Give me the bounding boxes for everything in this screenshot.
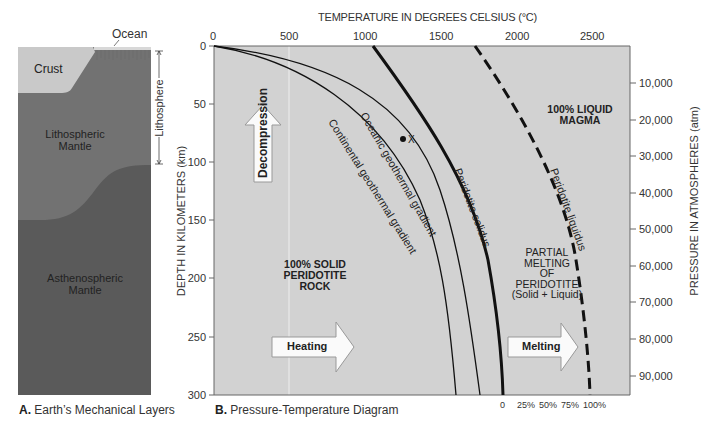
x-tick-2500: 2500 — [580, 30, 604, 42]
depth-ticks — [209, 46, 214, 395]
point-x-marker — [400, 136, 406, 142]
y-axis-left-title: DEPTH IN KILOMETERS (km) — [175, 146, 187, 296]
melt-tick-0: 0 — [500, 400, 505, 410]
melt-tick-100: 100% — [583, 400, 606, 410]
pressure-tick-20000: 20,000 — [639, 114, 673, 126]
pt-chart: Continental geothermal gradient Oceanic … — [0, 0, 703, 435]
x-tick-500: 500 — [280, 30, 298, 42]
heating-label: Heating — [287, 340, 327, 352]
pressure-tick-70000: 70,000 — [639, 296, 673, 308]
y-axis-right-title: PRESSURE IN ATMOSPHERES (atm) — [688, 106, 700, 295]
liquid-region-label: 100% LIQUID MAGMA — [535, 104, 625, 126]
x-tick-0: 0 — [210, 30, 216, 42]
depth-tick-300: 300 — [188, 389, 206, 401]
panel-b-caption: B. Pressure-Temperature Diagram — [215, 403, 398, 417]
pressure-tick-60000: 60,000 — [639, 260, 673, 272]
pressure-ticks — [630, 83, 636, 376]
melt-tick-75: 75% — [561, 400, 579, 410]
x-axis-title: TEMPERATURE IN DEGREES CELSIUS (°C) — [318, 11, 537, 23]
pressure-tick-40000: 40,000 — [639, 187, 673, 199]
pressure-tick-50000: 50,000 — [639, 223, 673, 235]
solid-region-label: 100% SOLID PERIDOTITE ROCK — [260, 259, 370, 292]
melt-tick-50: 50% — [539, 400, 557, 410]
depth-tick-100: 100 — [188, 156, 206, 168]
pressure-tick-30000: 30,000 — [639, 150, 673, 162]
pressure-tick-10000: 10,000 — [639, 77, 673, 89]
depth-tick-250: 250 — [188, 331, 206, 343]
x-tick-1500: 1500 — [429, 30, 453, 42]
panel-b-pt-diagram: Continental geothermal gradient Oceanic … — [0, 0, 703, 435]
partial-melting-region-label: PARTIAL MELTING OF PERIDOTITE (Solid + L… — [497, 247, 597, 300]
melt-tick-25: 25% — [517, 400, 535, 410]
depth-tick-150: 150 — [188, 214, 206, 226]
x-tick-1000: 1000 — [353, 30, 377, 42]
decompression-label: Decompression — [256, 88, 270, 178]
melting-label: Melting — [522, 340, 561, 352]
pressure-tick-90000: 90,000 — [639, 370, 673, 382]
depth-tick-50: 50 — [194, 98, 206, 110]
pressure-tick-80000: 80,000 — [639, 333, 673, 345]
depth-tick-200: 200 — [188, 272, 206, 284]
point-x-label: X — [408, 134, 415, 145]
x-tick-2000: 2000 — [505, 30, 529, 42]
depth-tick-0: 0 — [200, 40, 206, 52]
